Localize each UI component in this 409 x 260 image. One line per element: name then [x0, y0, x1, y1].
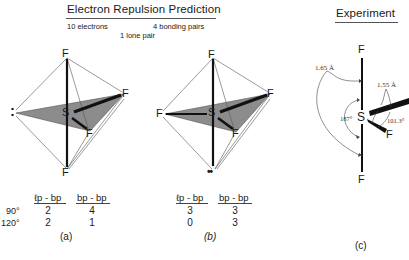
- a-col-bp-bp: bp - bp: [77, 192, 107, 203]
- a-atom-front-f: F: [86, 127, 93, 139]
- b-col2-underline: [218, 203, 252, 204]
- c-caption: (c): [355, 240, 367, 251]
- b-col-bp-bp: bp - bp: [219, 192, 249, 203]
- c-axial-length: 1.65 Å: [315, 64, 334, 72]
- c-equatorial-length: 1.55 Å: [377, 81, 396, 89]
- c-atom-front-f: F: [386, 128, 393, 140]
- a-row1-angle: 90°: [6, 206, 20, 216]
- c-equatorial-angle: 101.3°: [387, 117, 404, 124]
- c-atom-bottom-f: F: [358, 173, 365, 185]
- structure-a: [16, 58, 124, 169]
- a-atom-right-f: F: [122, 87, 129, 99]
- b-col1-underline: [176, 203, 208, 204]
- a-lone-pair: :: [10, 102, 15, 119]
- b-row2-lp-bp: 0: [175, 217, 205, 228]
- a-atom-s: S: [62, 106, 69, 118]
- a-atom-bottom-f: F: [62, 166, 69, 178]
- c-axial-angle: 187°: [340, 115, 352, 122]
- a-row2-bp-bp: 1: [77, 217, 107, 228]
- b-row1-lp-bp: 3: [175, 205, 205, 216]
- b-lone-pair: ••: [207, 166, 212, 177]
- b-atom-right-f: F: [267, 87, 274, 99]
- a-caption: (a): [60, 231, 72, 242]
- b-atom-front-f: F: [232, 127, 239, 139]
- a-row2-angle: 120°: [1, 218, 20, 228]
- a-col-lp-bp: ℓp - bp: [34, 192, 61, 203]
- a-atom-top-f: F: [62, 47, 69, 59]
- c-atom-top-f: F: [358, 43, 365, 55]
- structure-b: [163, 58, 270, 169]
- a-col2-underline: [76, 203, 110, 204]
- c-atom-s: S: [357, 110, 365, 124]
- a-row2-lp-bp: 2: [33, 217, 63, 228]
- b-col-lp-bp: ℓp - bp: [176, 192, 203, 203]
- a-col1-underline: [34, 203, 66, 204]
- b-row2-bp-bp: 3: [220, 217, 250, 228]
- b-atom-left-f: F: [156, 107, 163, 119]
- b-atom-s: S: [208, 106, 215, 118]
- b-row1-bp-bp: 3: [220, 205, 250, 216]
- a-row1-bp-bp: 4: [77, 205, 107, 216]
- a-row1-lp-bp: 2: [33, 205, 63, 216]
- b-caption: (b): [204, 231, 216, 242]
- b-atom-top-f: F: [208, 48, 215, 60]
